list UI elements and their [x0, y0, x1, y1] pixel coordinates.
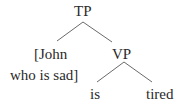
edge-vp-tired	[124, 62, 152, 82]
node-vp: VP	[112, 44, 131, 64]
node-tp: TP	[74, 1, 92, 21]
edge-tp-subject	[57, 22, 83, 41]
syntax-tree-diagram: TP [John who is sad] VP is tired	[0, 0, 182, 106]
node-is: is	[90, 84, 100, 104]
edge-tp-vp	[83, 22, 112, 42]
node-subject-line1: [John	[34, 44, 67, 64]
node-tired: tired	[146, 84, 174, 104]
edge-vp-is	[97, 62, 124, 82]
node-subject-line2: who is sad]	[10, 65, 78, 85]
